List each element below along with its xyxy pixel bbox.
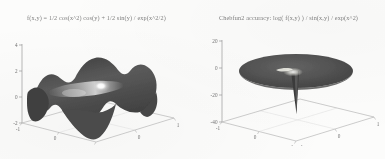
ytick-right-0: -1	[299, 144, 304, 147]
xtick-left-1: 0	[54, 135, 57, 141]
ytick-left-0: -1	[99, 145, 104, 147]
surface-left-highlight	[92, 80, 111, 93]
ytick-right-1: 0	[338, 133, 341, 139]
ytick-left-1: 0	[138, 134, 141, 140]
surface-left-soft-highlight	[62, 89, 86, 97]
xtick-left-2: 1	[91, 145, 94, 147]
xtick-right-2: 1	[291, 144, 294, 147]
xtick-right-1: 0	[254, 134, 257, 140]
axes-right: 20 0 -20 -40	[192, 26, 385, 146]
ztick-right-0: 20	[212, 38, 218, 44]
figure-right: Chebfun2 accuracy: log( f(x,y) ) / sin(x…	[192, 0, 385, 159]
plot-title-right: Chebfun2 accuracy: log( f(x,y) ) / sin(x…	[192, 14, 385, 21]
ztick-left-2: 0	[15, 94, 18, 100]
xtick-left-0: -1	[16, 126, 21, 132]
ztick-left-1: 2	[15, 68, 18, 74]
ztick-right-2: -20	[211, 92, 218, 98]
plot-title-left: f(x,y) = 1/2 cos(x^2) cos(y) + 1/2 sin(y…	[0, 14, 193, 21]
ytick-right-2: 1	[377, 121, 380, 127]
figure-left: f(x,y) = 1/2 cos(x^2) cos(y) + 1/2 sin(y…	[0, 0, 193, 159]
ytick-left-2: 1	[177, 122, 180, 128]
axes-left: 4 2 0 -2	[0, 26, 193, 146]
ztick-left-0: 4	[15, 42, 18, 48]
ztick-right-1: 0	[215, 65, 218, 71]
xtick-right-0: -1	[216, 125, 221, 131]
